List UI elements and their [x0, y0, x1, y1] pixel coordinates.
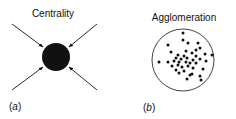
point-dot [177, 64, 180, 67]
point-dot [195, 49, 198, 52]
panel-b-title: Agglomeration [152, 12, 216, 23]
point-dot [202, 68, 205, 71]
point-dot [191, 73, 194, 76]
point-dot [167, 61, 170, 64]
point-dot [195, 62, 198, 65]
panel-centrality: Centrality (a) [9, 8, 97, 112]
point-dot [175, 69, 178, 72]
point-dot [170, 51, 173, 54]
point-dot [200, 79, 203, 82]
point-dot [180, 58, 183, 61]
point-dot [185, 50, 188, 53]
point-dot [191, 52, 194, 55]
arrow-icon [69, 24, 97, 47]
diagram-canvas: Centrality (a) Agglomeration (b) [0, 0, 236, 119]
point-dot [178, 72, 181, 75]
arrow-icon [69, 67, 97, 90]
point-dot [205, 60, 208, 63]
point-dot [171, 65, 174, 68]
point-dot [186, 78, 189, 81]
central-node [42, 43, 70, 71]
point-dot [192, 59, 195, 62]
scattered-points [158, 32, 214, 82]
panel-a-label: (a) [9, 101, 21, 112]
point-dot [199, 75, 202, 78]
point-dot [204, 53, 207, 56]
point-dot [185, 61, 188, 64]
point-dot [186, 57, 189, 60]
point-dot [183, 55, 186, 58]
point-dot [173, 60, 176, 63]
point-dot [189, 62, 192, 65]
arrow-icon [12, 67, 43, 90]
point-dot [182, 39, 185, 42]
point-dot [158, 61, 161, 64]
point-dot [181, 66, 184, 69]
point-dot [187, 65, 190, 68]
point-dot [178, 61, 181, 64]
point-dot [182, 32, 185, 35]
point-dot [175, 57, 178, 60]
point-dot [211, 54, 214, 57]
point-dot [199, 47, 202, 50]
point-dot [199, 58, 202, 61]
panel-a-title: Centrality [32, 8, 74, 19]
point-dot [195, 55, 198, 58]
point-dot [183, 70, 186, 73]
panel-agglomeration: Agglomeration (b) [143, 12, 216, 113]
point-dot [167, 44, 170, 47]
point-dot [192, 67, 195, 70]
point-dot [177, 54, 180, 57]
panel-b-label: (b) [143, 102, 155, 113]
boundary-circle [152, 29, 214, 91]
arrow-icon [12, 24, 43, 47]
point-dot [197, 42, 200, 45]
point-dot [187, 42, 190, 45]
